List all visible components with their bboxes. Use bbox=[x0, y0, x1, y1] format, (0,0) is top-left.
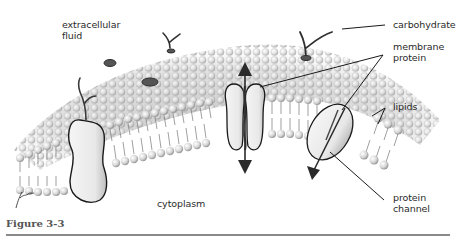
figure-caption: Figure 3-3 bbox=[6, 218, 64, 229]
label-carbohydrate: carbohydrate bbox=[393, 19, 456, 30]
arrow-down-icon bbox=[307, 166, 320, 180]
label-protein-channel: protein channel bbox=[393, 192, 430, 214]
label-lipids: lipids bbox=[393, 101, 417, 112]
artist-signature bbox=[16, 192, 34, 208]
label-membrane-protein: membrane protein bbox=[393, 41, 444, 63]
leader-carbohydrate bbox=[342, 25, 385, 29]
caption-rule bbox=[6, 234, 450, 236]
label-cytoplasm: cytoplasm bbox=[157, 198, 205, 209]
label-extracellular-fluid: extracellular fluid bbox=[62, 19, 120, 41]
arrow-down-icon bbox=[238, 160, 252, 174]
